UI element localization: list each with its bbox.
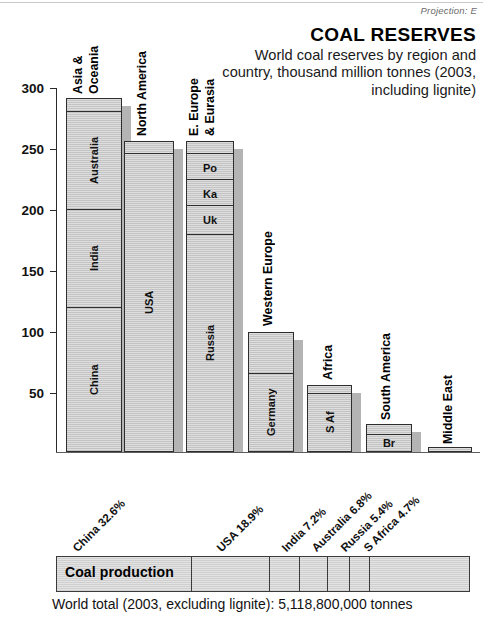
production-divider-australia — [327, 556, 328, 592]
y-axis-line — [56, 88, 57, 452]
bar-shadow — [174, 149, 183, 452]
production-divider-india — [299, 556, 300, 592]
ytick-label-50: 50 — [10, 386, 44, 401]
bar-north-america[interactable]: USA — [124, 141, 174, 452]
bar-africa[interactable]: S Af — [307, 385, 352, 452]
bar-asia-oceania[interactable]: Australia India China — [66, 98, 122, 452]
segment-label-russia: Russia — [203, 234, 217, 452]
segment-divider — [186, 153, 234, 154]
production-pct-china: China 32.6% — [70, 497, 127, 554]
group-label-middle-east: Middle East — [442, 352, 455, 444]
group-label-asia-oceania-line1: Asia & — [72, 22, 85, 94]
segment-label-germany: Germany — [264, 373, 278, 452]
chart-canvas: Projection: E COAL RESERVES World coal r… — [0, 0, 483, 617]
production-divider-safrica — [369, 556, 370, 592]
bar-shadow — [294, 340, 303, 452]
bar-shadow — [412, 432, 421, 452]
bar-e-europe-eurasia[interactable]: Po Ka Uk Russia — [186, 141, 234, 452]
coal-production-bar[interactable]: Coal production — [56, 556, 470, 592]
bar-shadow — [234, 149, 243, 452]
production-pct-usa: USA 18.9% — [214, 502, 266, 554]
group-label-south-america: South America — [380, 310, 393, 420]
bar-south-america[interactable]: Br — [366, 424, 412, 452]
production-bar-label: Coal production — [65, 564, 174, 580]
production-divider-russia — [349, 556, 350, 592]
segment-label-india: India — [87, 209, 101, 307]
x-axis-baseline — [56, 452, 480, 453]
segment-label-ka: Ka — [186, 185, 234, 203]
ytick-label-150: 150 — [10, 264, 44, 279]
production-divider-china — [191, 556, 192, 592]
segment-divider — [186, 205, 234, 206]
segment-label-po: Po — [186, 159, 234, 177]
ytick-label-300: 300 — [10, 81, 44, 96]
ytick-label-100: 100 — [10, 325, 44, 340]
bar-shadow — [352, 393, 361, 452]
segment-label-china: China — [87, 307, 101, 452]
group-label-asia-oceania-line2: Oceania — [88, 22, 101, 94]
bar-body — [428, 447, 472, 452]
segment-label-br: Br — [366, 435, 412, 451]
production-divider-usa — [269, 556, 270, 592]
world-total-footnote: World total (2003, excluding lignite): 5… — [52, 596, 413, 612]
group-label-e-europe-line1: E. Europe — [188, 62, 201, 136]
reserves-plot: 300 250 200 150 100 50 Australia India C… — [0, 0, 483, 617]
bar-middle-east[interactable] — [428, 447, 472, 452]
segment-label-usa: USA — [142, 153, 156, 452]
ytick-label-250: 250 — [10, 142, 44, 157]
segment-label-s-af: S Af — [323, 393, 337, 452]
bar-western-europe[interactable]: Germany — [248, 332, 294, 452]
ytick-label-200: 200 — [10, 203, 44, 218]
group-label-north-america: North America — [136, 40, 149, 136]
group-label-western-europe: Western Europe — [262, 222, 275, 326]
group-label-africa: Africa — [322, 322, 335, 380]
segment-divider — [186, 179, 234, 180]
segment-label-australia: Australia — [87, 111, 101, 209]
group-label-e-europe-line2: & Eurasia — [204, 62, 217, 136]
segment-label-uk: Uk — [186, 211, 234, 229]
